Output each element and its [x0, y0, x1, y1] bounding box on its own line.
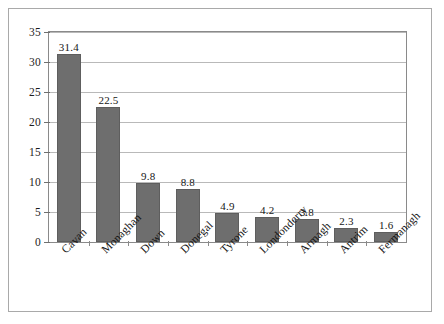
bar-slot: 22.5 — [89, 32, 129, 242]
bar-slot: 4.2 — [247, 32, 287, 242]
y-axis-tick-label: 20 — [29, 116, 41, 128]
bar-slot: 8.8 — [168, 32, 208, 242]
bar-value-label: 2.3 — [339, 215, 353, 227]
x-axis-tick-mark — [89, 241, 90, 246]
bar-value-label: 9.8 — [141, 170, 155, 182]
bar-value-label: 31.4 — [59, 41, 79, 53]
bar[interactable] — [57, 54, 81, 242]
x-axis-tick-mark — [208, 241, 209, 246]
bar-slot: 31.4 — [49, 32, 89, 242]
x-axis-tick-mark — [168, 241, 169, 246]
x-axis-tick-mark — [327, 241, 328, 246]
bar-slot: 2.3 — [327, 32, 367, 242]
y-axis-tick-label: 35 — [29, 26, 41, 38]
bar-value-label: 4.2 — [260, 204, 274, 216]
x-axis-tick-mark — [366, 241, 367, 246]
y-axis-tick-label: 10 — [29, 176, 41, 188]
x-axis-tick-mark — [128, 241, 129, 246]
y-axis-tick-label: 0 — [35, 236, 41, 248]
bar-value-label: 1.6 — [379, 219, 393, 231]
bar-slot: 1.6 — [366, 32, 406, 242]
bar-slot: 4.9 — [208, 32, 248, 242]
bar-value-label: 8.8 — [181, 176, 195, 188]
x-axis-tick-mark — [287, 241, 288, 246]
bar[interactable] — [96, 107, 120, 242]
y-axis-tick-label: 25 — [29, 86, 41, 98]
bar-value-label: 4.9 — [220, 200, 234, 212]
y-axis-tick-label: 30 — [29, 56, 41, 68]
y-axis-tick-label: 5 — [35, 206, 41, 218]
bar-chart-figure: 0510152025303531.422.59.88.84.94.23.82.3… — [0, 0, 444, 324]
y-axis-tick-label: 15 — [29, 146, 41, 158]
bar-value-label: 22.5 — [98, 94, 118, 106]
plot-area: 0510152025303531.422.59.88.84.94.23.82.3… — [48, 31, 407, 243]
x-axis-tick-mark — [247, 241, 248, 246]
